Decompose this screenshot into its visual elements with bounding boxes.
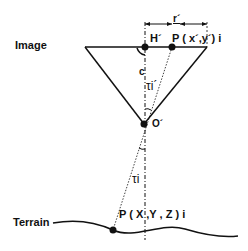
tau-lower-label: τi xyxy=(132,172,139,186)
r-prime-label: r´ xyxy=(173,13,180,24)
tau-upper-label: τi´ xyxy=(146,79,157,93)
cone-left-edge xyxy=(85,47,144,124)
arrow-right-icon-2 xyxy=(202,22,207,26)
point-p-terrain xyxy=(110,227,117,234)
p-terrain-label: P ( X ,Y , Z ) i xyxy=(119,208,185,220)
o-prime-label: O´ xyxy=(152,118,163,129)
h-prime-label: H´ xyxy=(150,32,162,44)
point-p-image xyxy=(169,44,176,51)
upper-angle-arc xyxy=(145,109,151,110)
terrain-label: Terrain xyxy=(13,216,49,228)
p-image-label: P ( x´,y´) i xyxy=(172,32,221,44)
arrow-left-icon xyxy=(145,22,150,26)
image-label: Image xyxy=(15,39,47,51)
lower-angle-arc xyxy=(139,148,145,149)
arrow-right-icon xyxy=(167,22,172,26)
arrow-left-icon-2 xyxy=(180,22,185,26)
point-h-prime xyxy=(142,44,149,51)
c-label: c xyxy=(139,66,145,77)
point-o-prime xyxy=(141,121,148,128)
